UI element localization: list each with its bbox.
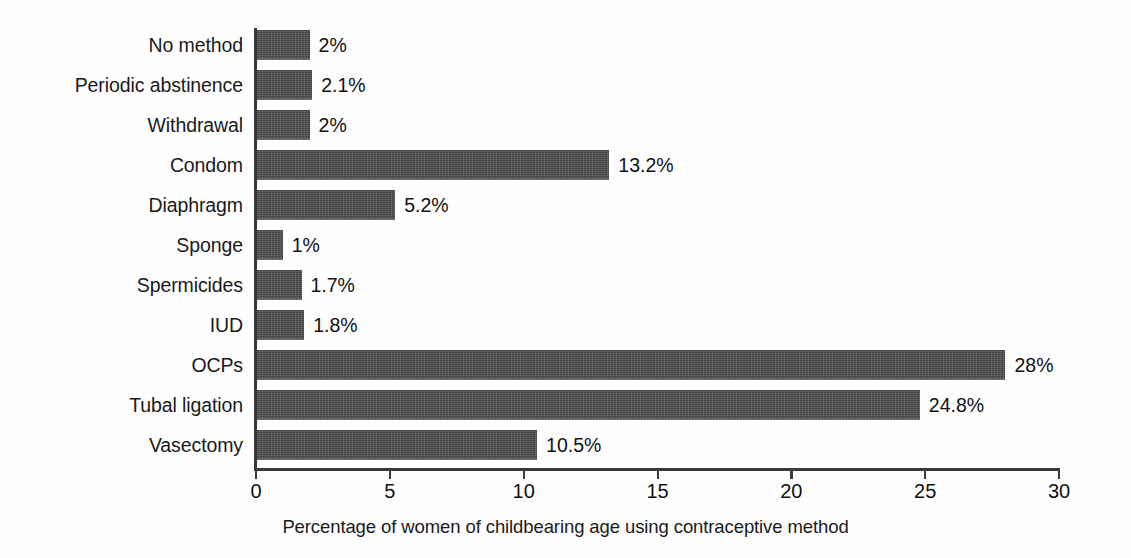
bar-row: Spermicides1.7% bbox=[0, 270, 1131, 300]
bar-value-label: 1.8% bbox=[313, 310, 357, 340]
x-axis-title: Percentage of women of childbearing age … bbox=[0, 516, 1131, 538]
x-axis-tick-label: 5 bbox=[360, 480, 420, 503]
category-label: Condom bbox=[0, 150, 243, 180]
x-axis-tick-label: 0 bbox=[226, 480, 286, 503]
x-axis-tick bbox=[790, 468, 792, 479]
category-label: Periodic abstinence bbox=[0, 70, 243, 100]
y-axis-line bbox=[254, 28, 257, 468]
bar-row: Withdrawal2% bbox=[0, 110, 1131, 140]
bar bbox=[256, 110, 310, 140]
bar-row: No method2% bbox=[0, 30, 1131, 60]
bar-value-label: 13.2% bbox=[618, 150, 673, 180]
bar bbox=[256, 390, 920, 420]
bar-value-label: 2.1% bbox=[321, 70, 365, 100]
bar bbox=[256, 70, 312, 100]
x-axis-tick-label: 30 bbox=[1029, 480, 1089, 503]
x-axis-tick bbox=[523, 468, 525, 479]
x-axis-tick bbox=[389, 468, 391, 479]
bar bbox=[256, 230, 283, 260]
bar-value-label: 28% bbox=[1014, 350, 1053, 380]
category-label: OCPs bbox=[0, 350, 243, 380]
x-axis-tick-label: 10 bbox=[494, 480, 554, 503]
x-axis-tick bbox=[657, 468, 659, 479]
bar-row: Tubal ligation24.8% bbox=[0, 390, 1131, 420]
category-label: IUD bbox=[0, 310, 243, 340]
x-axis-tick bbox=[924, 468, 926, 479]
category-label: Tubal ligation bbox=[0, 390, 243, 420]
bar-row: Periodic abstinence2.1% bbox=[0, 70, 1131, 100]
bar-row: Diaphragm5.2% bbox=[0, 190, 1131, 220]
bar-chart-plot-area: No method2%Periodic abstinence2.1%Withdr… bbox=[0, 0, 1131, 558]
bar bbox=[256, 350, 1005, 380]
bar-value-label: 2% bbox=[319, 110, 347, 140]
bar-value-label: 5.2% bbox=[404, 190, 448, 220]
bar bbox=[256, 270, 302, 300]
bar bbox=[256, 30, 310, 60]
bar bbox=[256, 150, 609, 180]
bar-row: IUD1.8% bbox=[0, 310, 1131, 340]
category-label: No method bbox=[0, 30, 243, 60]
category-label: Diaphragm bbox=[0, 190, 243, 220]
bar bbox=[256, 430, 537, 460]
category-label: Vasectomy bbox=[0, 430, 243, 460]
bar-row: OCPs28% bbox=[0, 350, 1131, 380]
category-label: Spermicides bbox=[0, 270, 243, 300]
bar-row: Sponge1% bbox=[0, 230, 1131, 260]
bar bbox=[256, 310, 304, 340]
bar bbox=[256, 190, 395, 220]
bar-value-label: 2% bbox=[319, 30, 347, 60]
category-label: Withdrawal bbox=[0, 110, 243, 140]
x-axis-tick-label: 25 bbox=[895, 480, 955, 503]
x-axis-tick bbox=[1058, 468, 1060, 479]
x-axis-tick-label: 20 bbox=[761, 480, 821, 503]
bar-value-label: 1.7% bbox=[311, 270, 355, 300]
bar-row: Condom13.2% bbox=[0, 150, 1131, 180]
bar-row: Vasectomy10.5% bbox=[0, 430, 1131, 460]
category-label: Sponge bbox=[0, 230, 243, 260]
chart-page: No method2%Periodic abstinence2.1%Withdr… bbox=[0, 0, 1131, 558]
x-axis-tick-label: 15 bbox=[628, 480, 688, 503]
bar-value-label: 24.8% bbox=[929, 390, 984, 420]
bar-value-label: 10.5% bbox=[546, 430, 601, 460]
bar-value-label: 1% bbox=[292, 230, 320, 260]
x-axis-tick bbox=[255, 468, 257, 479]
